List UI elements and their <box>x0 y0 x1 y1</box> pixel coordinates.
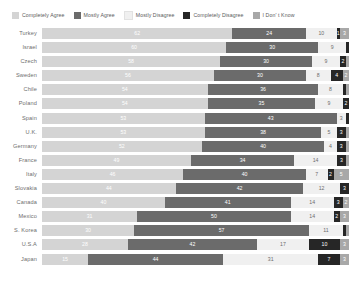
bar-segment[interactable]: 8 <box>318 84 343 95</box>
bar-segment-value: 15 <box>62 254 68 265</box>
bar-segment-value: 5 <box>328 127 331 138</box>
bar-segment[interactable]: 3 <box>337 155 346 166</box>
bar-segment[interactable]: 42 <box>128 239 257 250</box>
bar-segment[interactable]: 35 <box>208 98 315 109</box>
bar-segment[interactable]: 38 <box>205 127 322 138</box>
bar-segment[interactable] <box>346 141 349 152</box>
bar-segment[interactable]: 7 <box>306 169 327 180</box>
bar-segment[interactable]: 56 <box>42 70 214 81</box>
bar-segment[interactable]: 46 <box>42 169 183 180</box>
bar-segment[interactable]: 41 <box>165 197 291 208</box>
bar-segment[interactable]: 8 <box>306 70 331 81</box>
bar-segment[interactable]: 3 <box>337 127 346 138</box>
bar-segment-value: 40 <box>260 141 266 152</box>
bar-segment[interactable]: 44 <box>42 183 176 194</box>
bar-segment[interactable]: 24 <box>232 28 306 39</box>
stacked-bar: 40411432 <box>42 197 349 208</box>
chart-row: France4934143 <box>0 155 349 166</box>
bar-segment[interactable]: 2 <box>343 70 349 81</box>
bar-segment[interactable]: 50 <box>137 211 291 222</box>
bar-segment[interactable]: 11 <box>309 225 343 236</box>
bar-segment[interactable]: 30 <box>42 225 134 236</box>
bar-segment-value: 62 <box>134 28 140 39</box>
bar-segment-value: 3 <box>340 113 343 124</box>
row-label-slovakia: Slovakia <box>0 183 42 194</box>
bar-segment[interactable]: 3 <box>337 141 346 152</box>
bar-segment[interactable]: 3 <box>340 254 349 265</box>
bar-segment-value: 3 <box>343 254 346 265</box>
bar-segment[interactable]: 10 <box>306 28 337 39</box>
bar-segment-value: 30 <box>263 56 269 67</box>
bar-segment[interactable]: 4 <box>324 141 336 152</box>
bar-segment[interactable]: 12 <box>303 183 339 194</box>
bar-segment[interactable]: 53 <box>42 127 205 138</box>
bar-segment[interactable]: 3 <box>340 183 349 194</box>
bar-segment[interactable]: 2 <box>343 197 349 208</box>
bar-segment[interactable]: 44 <box>88 254 223 265</box>
bar-segment-value: 17 <box>280 239 286 250</box>
bar-segment-value: 42 <box>190 239 196 250</box>
legend-item-1[interactable]: Mostly Agree <box>74 12 115 19</box>
bar-segment[interactable]: 30 <box>226 42 318 53</box>
legend-item-4[interactable]: I Don' t Know <box>253 12 295 19</box>
bar-segment[interactable]: 57 <box>134 225 309 236</box>
chart-row: Chile54368 <box>0 84 349 95</box>
bar-segment[interactable]: 3 <box>340 211 349 222</box>
bar-segment[interactable]: 58 <box>42 56 220 67</box>
bar-segment[interactable]: 62 <box>42 28 232 39</box>
row-label-spain: Spain <box>0 113 42 124</box>
bar-segment[interactable]: 54 <box>42 84 208 95</box>
bar-segment[interactable]: 43 <box>205 113 337 124</box>
bar-segment[interactable]: 9 <box>312 56 340 67</box>
bar-segment[interactable]: 2 <box>343 98 349 109</box>
bar-segment-value: 60 <box>131 42 137 53</box>
bar-segment-value: 3 <box>340 127 343 138</box>
bar-segment[interactable]: 14 <box>291 197 334 208</box>
bar-segment[interactable]: 52 <box>42 141 202 152</box>
bar-segment-value: 3 <box>340 141 343 152</box>
bar-segment[interactable]: 4 <box>331 70 343 81</box>
bar-segment-value: 24 <box>266 28 272 39</box>
bar-segment[interactable]: 14 <box>294 155 337 166</box>
bar-segment[interactable]: 30 <box>220 56 312 67</box>
bar-segment[interactable]: 40 <box>202 141 325 152</box>
bar-segment[interactable]: 15 <box>42 254 88 265</box>
bar-segment[interactable]: 14 <box>291 211 334 222</box>
bar-segment[interactable] <box>346 56 349 67</box>
bar-segment[interactable]: 40 <box>183 169 306 180</box>
bar-segment[interactable]: 9 <box>315 98 343 109</box>
bar-segment-value: 40 <box>101 197 107 208</box>
bar-segment[interactable]: 31 <box>223 254 318 265</box>
chart-row: Sweden5630842 <box>0 70 349 81</box>
chart-row: Israel60309 <box>0 42 349 53</box>
bar-segment[interactable]: 28 <box>42 239 128 250</box>
bar-segment[interactable]: 31 <box>42 211 137 222</box>
bar-segment[interactable]: 5 <box>334 169 349 180</box>
bar-segment[interactable]: 3 <box>340 28 349 39</box>
bar-segment[interactable]: 40 <box>42 197 165 208</box>
bar-segment[interactable]: 5 <box>321 127 336 138</box>
bar-segment[interactable]: 30 <box>214 70 306 81</box>
bar-segment[interactable]: 42 <box>176 183 304 194</box>
legend-item-0[interactable]: Completely Agree <box>12 12 65 19</box>
bar-segment[interactable]: 3 <box>340 239 349 250</box>
bar-segment[interactable]: 9 <box>318 42 346 53</box>
bar-segment[interactable]: 36 <box>208 84 319 95</box>
bar-segment[interactable]: 49 <box>42 155 191 166</box>
bar-segment[interactable]: 3 <box>334 197 343 208</box>
stacked-bar: 31501423 <box>42 211 349 222</box>
legend-swatch-icon <box>124 11 133 20</box>
bar-segment[interactable]: 53 <box>42 113 205 124</box>
bar-segment[interactable]: 10 <box>309 239 340 250</box>
legend-item-3[interactable]: Completely Disagree <box>183 12 243 19</box>
legend-swatch-icon <box>183 12 190 19</box>
bar-segment[interactable]: 54 <box>42 98 208 109</box>
bar-segment[interactable] <box>346 84 349 95</box>
bar-segment[interactable]: 3 <box>337 113 346 124</box>
bar-segment[interactable]: 34 <box>191 155 294 166</box>
bar-segment[interactable]: 60 <box>42 42 226 53</box>
legend-item-2[interactable]: Mostly Disagree <box>124 11 175 20</box>
bar-segment[interactable]: 17 <box>257 239 309 250</box>
bar-segment-value: 54 <box>122 98 128 109</box>
bar-segment[interactable]: 7 <box>318 254 339 265</box>
